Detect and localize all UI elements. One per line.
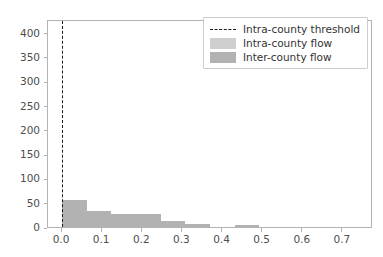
legend-item: Intra-county flow bbox=[210, 36, 360, 50]
y-tick-mark bbox=[44, 57, 48, 58]
y-tick-mark bbox=[44, 82, 48, 83]
x-tick-label: 0.5 bbox=[244, 233, 280, 245]
intra-county-threshold-line bbox=[62, 21, 63, 227]
y-tick-label: 250 bbox=[20, 100, 40, 112]
x-tick-mark bbox=[261, 228, 262, 232]
x-tick-mark bbox=[341, 228, 342, 232]
x-tick-label: 0.6 bbox=[284, 233, 320, 245]
legend-dashed-line-icon bbox=[210, 24, 236, 35]
x-tick-label: 0.2 bbox=[123, 233, 159, 245]
x-tick-label: 0.1 bbox=[83, 233, 119, 245]
x-tick-mark bbox=[61, 228, 62, 232]
y-tick-mark bbox=[44, 228, 48, 229]
y-tick-label: 100 bbox=[20, 172, 40, 184]
y-tick-mark bbox=[44, 106, 48, 107]
y-tick-label: 0 bbox=[33, 221, 40, 233]
y-tick-label: 200 bbox=[20, 124, 40, 136]
legend-item: Intra-county threshold bbox=[210, 22, 360, 36]
y-tick-label: 400 bbox=[20, 27, 40, 39]
y-tick-mark bbox=[44, 33, 48, 34]
x-tick-mark bbox=[141, 228, 142, 232]
x-tick-mark bbox=[101, 228, 102, 232]
legend-swatch-light-icon bbox=[210, 38, 236, 49]
legend-item: Inter-county flow bbox=[210, 50, 360, 64]
histogram-figure: 050100150200250300350400 0.00.10.20.30.4… bbox=[0, 0, 383, 257]
x-tick-label: 0.3 bbox=[163, 233, 199, 245]
legend-swatch-dark-icon bbox=[210, 52, 236, 63]
x-tick-mark bbox=[181, 228, 182, 232]
x-tick-label: 0.0 bbox=[43, 233, 79, 245]
legend-item-label: Inter-county flow bbox=[243, 51, 332, 63]
x-tick-label: 0.7 bbox=[324, 233, 360, 245]
legend-item-label: Intra-county threshold bbox=[243, 23, 360, 35]
y-tick-mark bbox=[44, 130, 48, 131]
y-tick-mark bbox=[44, 155, 48, 156]
y-tick-label: 300 bbox=[20, 75, 40, 87]
x-tick-label: 0.4 bbox=[204, 233, 240, 245]
y-tick-mark bbox=[44, 203, 48, 204]
x-tick-mark bbox=[301, 228, 302, 232]
y-tick-label: 350 bbox=[20, 51, 40, 63]
x-tick-mark bbox=[221, 228, 222, 232]
y-tick-label: 150 bbox=[20, 148, 40, 160]
chart-legend: Intra-county thresholdIntra-county flowI… bbox=[203, 17, 368, 69]
legend-item-label: Intra-county flow bbox=[243, 37, 332, 49]
y-tick-mark bbox=[44, 179, 48, 180]
y-tick-label: 50 bbox=[27, 197, 40, 209]
